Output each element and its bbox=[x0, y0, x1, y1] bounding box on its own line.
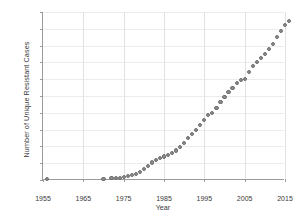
y-tick-mark bbox=[40, 62, 43, 63]
x-tick-mark bbox=[83, 179, 84, 182]
y-tick-mark bbox=[40, 146, 43, 147]
y-tick-mark bbox=[40, 163, 43, 164]
data-point bbox=[101, 177, 105, 181]
data-point bbox=[146, 164, 150, 168]
x-gridline bbox=[245, 12, 246, 179]
x-tick-label: 1955 bbox=[28, 195, 58, 202]
data-point bbox=[182, 141, 186, 145]
data-point bbox=[186, 136, 190, 140]
x-tick-label: 1965 bbox=[68, 195, 98, 202]
data-point bbox=[45, 177, 49, 181]
x-tick-label: 1975 bbox=[109, 195, 139, 202]
data-point bbox=[279, 29, 283, 33]
x-tick-mark bbox=[164, 179, 165, 182]
x-tick-mark bbox=[204, 179, 205, 182]
y-tick-mark bbox=[40, 29, 43, 30]
data-point bbox=[263, 52, 267, 56]
data-point bbox=[247, 70, 251, 74]
data-point bbox=[202, 118, 206, 122]
data-point bbox=[271, 42, 275, 46]
data-point bbox=[194, 128, 198, 132]
data-point bbox=[198, 123, 202, 127]
x-gridline bbox=[83, 12, 84, 179]
data-point bbox=[235, 81, 239, 85]
data-point bbox=[214, 106, 218, 110]
x-gridline bbox=[124, 12, 125, 179]
x-tick-label: 1995 bbox=[189, 195, 219, 202]
data-point bbox=[255, 60, 259, 64]
y-axis-title: Number of Unique Resistant Cases bbox=[22, 20, 31, 180]
data-point bbox=[259, 56, 263, 60]
data-point bbox=[218, 100, 222, 104]
y-tick-mark bbox=[40, 96, 43, 97]
data-point bbox=[287, 19, 291, 23]
data-point bbox=[222, 95, 226, 99]
x-tick-mark bbox=[285, 179, 286, 182]
x-gridline bbox=[204, 12, 205, 179]
data-point bbox=[138, 170, 142, 174]
data-point bbox=[210, 111, 214, 115]
data-point bbox=[275, 35, 279, 39]
x-tick-label: 2015 bbox=[270, 195, 300, 202]
x-tick-label: 2005 bbox=[230, 195, 260, 202]
x-tick-mark bbox=[124, 179, 125, 182]
y-tick-mark bbox=[40, 130, 43, 131]
data-point bbox=[178, 145, 182, 149]
data-point bbox=[174, 148, 178, 152]
y-tick-mark bbox=[40, 46, 43, 47]
data-point bbox=[251, 64, 255, 68]
data-point bbox=[190, 132, 194, 136]
x-axis-title: Year bbox=[42, 203, 284, 212]
data-point bbox=[267, 47, 271, 51]
data-point bbox=[142, 167, 146, 171]
data-point bbox=[226, 90, 230, 94]
x-tick-label: 1985 bbox=[149, 195, 179, 202]
data-point bbox=[230, 86, 234, 90]
x-gridline bbox=[285, 12, 286, 179]
x-tick-mark bbox=[245, 179, 246, 182]
x-tick-mark bbox=[43, 179, 44, 182]
y-tick-mark bbox=[40, 113, 43, 114]
plot-area: 0501001502002503003504004505001955196519… bbox=[42, 12, 284, 180]
data-point bbox=[283, 23, 287, 27]
y-tick-mark bbox=[40, 79, 43, 80]
chart-figure: Number of Unique Resistant Cases Year 05… bbox=[0, 0, 301, 219]
data-point bbox=[243, 77, 247, 81]
y-tick-mark bbox=[40, 12, 43, 13]
